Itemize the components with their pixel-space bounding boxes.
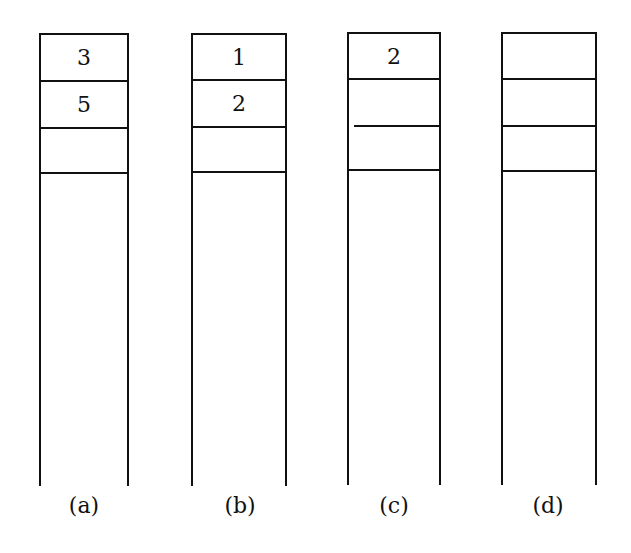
stack-divider <box>41 172 127 174</box>
stack-cell <box>193 126 285 171</box>
stack-cell <box>41 127 127 172</box>
stack-cell: 2 <box>193 79 285 126</box>
stack-d <box>501 32 597 485</box>
stack-divider <box>349 169 439 171</box>
stack-b: 1 2 <box>191 33 287 486</box>
stack-a: 3 5 <box>39 33 129 486</box>
stack-cell <box>503 78 595 125</box>
stack-label-b: (b) <box>210 493 270 518</box>
stack-cell <box>503 125 595 170</box>
stack-cell <box>503 32 595 78</box>
stack-cell: 3 <box>41 33 127 80</box>
stack-divider <box>193 171 285 173</box>
stack-cell: 2 <box>349 32 439 78</box>
stack-c: 2 <box>347 32 441 485</box>
stack-cell <box>354 125 439 169</box>
stack-cell: 5 <box>41 80 127 127</box>
stack-label-d: (d) <box>518 493 578 518</box>
stack-cell <box>349 78 439 125</box>
stack-cell: 1 <box>193 33 285 79</box>
stack-label-c: (c) <box>364 493 424 518</box>
stack-label-a: (a) <box>54 493 114 518</box>
stack-divider <box>503 170 595 172</box>
